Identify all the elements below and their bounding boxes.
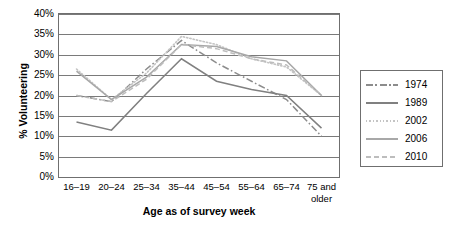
series-line-2010 bbox=[77, 45, 322, 102]
legend-swatch-2010 bbox=[366, 156, 398, 158]
legend-label: 1974 bbox=[405, 78, 427, 92]
x-axis-title: Age as of survey week bbox=[58, 205, 340, 217]
series-line-2006 bbox=[77, 45, 322, 100]
series-line-1989 bbox=[77, 59, 322, 130]
x-axis-tick-label: 75 andolder bbox=[299, 181, 345, 204]
y-axis-tick-label: 35% bbox=[20, 29, 54, 39]
legend-swatch-1989 bbox=[366, 102, 398, 104]
y-axis-tick-label: 40% bbox=[20, 9, 54, 19]
legend-item-2010[interactable]: 2010 bbox=[361, 148, 444, 166]
y-axis-tick-labels: 0%5%10%15%20%25%30%35%40% bbox=[20, 0, 54, 236]
legend-label: 1989 bbox=[405, 96, 427, 110]
legend-label: 2002 bbox=[405, 114, 427, 128]
y-axis-tick-label: 0% bbox=[20, 172, 54, 182]
legend-item-2002[interactable]: 2002 bbox=[361, 112, 444, 130]
legend-item-1974[interactable]: 1974 bbox=[361, 76, 444, 94]
plot-area bbox=[58, 13, 340, 178]
legend-swatch-1974 bbox=[366, 84, 398, 86]
y-axis-tick-label: 5% bbox=[20, 152, 54, 162]
y-axis-tick-label: 25% bbox=[20, 70, 54, 80]
line-chart-svg bbox=[59, 14, 339, 177]
legend-item-2006[interactable]: 2006 bbox=[361, 130, 444, 148]
legend-label: 2010 bbox=[405, 150, 427, 164]
y-axis-tick-label: 10% bbox=[20, 131, 54, 141]
legend-swatch-2006 bbox=[366, 138, 398, 140]
y-axis-tick-label: 15% bbox=[20, 111, 54, 121]
legend-swatch-2002 bbox=[366, 120, 398, 122]
chart-legend: 19741989200220062010 bbox=[360, 70, 443, 167]
legend-item-1989[interactable]: 1989 bbox=[361, 94, 444, 112]
y-axis-tick-label: 20% bbox=[20, 91, 54, 101]
y-axis-tick-label: 30% bbox=[20, 50, 54, 60]
chart-container: % Volunteering 0%5%10%15%20%25%30%35%40%… bbox=[0, 0, 453, 236]
series-line-1974 bbox=[77, 40, 322, 136]
legend-label: 2006 bbox=[405, 132, 427, 146]
series-lines bbox=[59, 14, 339, 177]
